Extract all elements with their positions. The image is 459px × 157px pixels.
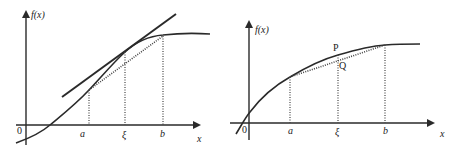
left-x-label: x — [196, 133, 202, 144]
left-figure: f(x) 0 a ξ b x — [16, 9, 210, 145]
left-curve — [16, 33, 210, 143]
point-q-label: Q — [339, 60, 347, 71]
left-tick-b: b — [160, 128, 165, 139]
right-origin-label: 0 — [242, 124, 247, 135]
point-p-label: P — [333, 42, 339, 53]
right-tick-b: b — [383, 125, 388, 136]
left-tick-xi: ξ — [122, 129, 127, 141]
left-tick-a: a — [80, 128, 85, 139]
left-chord — [89, 36, 163, 90]
right-tick-a: a — [288, 125, 293, 136]
right-tick-xi: ξ — [335, 126, 340, 138]
right-curve — [236, 44, 420, 134]
right-y-label: f(x) — [255, 24, 270, 36]
left-tangent-line — [62, 14, 176, 97]
right-x-label: x — [439, 128, 445, 139]
right-figure: f(x) 0 a ξ b x P Q — [230, 22, 445, 140]
left-y-label: f(x) — [31, 9, 46, 21]
left-origin-label: 0 — [17, 125, 22, 136]
